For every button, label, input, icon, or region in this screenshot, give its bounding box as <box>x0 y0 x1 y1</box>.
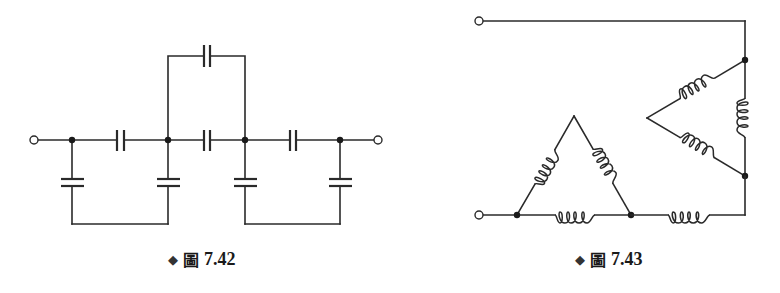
junction-node <box>165 137 171 143</box>
caption-label: 圖 <box>590 247 606 271</box>
capacitor-shunt-4 <box>329 179 352 186</box>
inductor <box>678 131 718 161</box>
inductor <box>555 212 595 223</box>
capacitor-bridge <box>204 45 210 67</box>
capacitor-shunt-3 <box>234 179 257 186</box>
diamond-bullet-icon: ◆ <box>168 252 178 267</box>
figure-7-43-circuit <box>475 17 748 223</box>
figure-caption-7-43: ◆ 圖 7.43 <box>575 247 643 271</box>
caption-number: 7.42 <box>204 249 236 270</box>
inductor <box>590 145 620 185</box>
inductor-series <box>668 212 710 223</box>
junction-node <box>242 137 248 143</box>
junction-node <box>69 137 75 143</box>
delta-network-right <box>647 57 748 179</box>
terminal-top <box>475 17 483 25</box>
circuit-diagrams <box>0 0 780 293</box>
terminal-right <box>374 136 382 144</box>
inductor <box>676 71 716 101</box>
junction-node <box>742 57 748 63</box>
delta-network-left <box>514 116 634 223</box>
diamond-bullet-icon: ◆ <box>575 252 585 267</box>
capacitor-shunt-2 <box>157 179 180 186</box>
terminal-left <box>30 136 38 144</box>
caption-label: 圖 <box>183 247 199 271</box>
capacitor-series-3 <box>290 130 296 151</box>
junction-node <box>514 212 520 218</box>
figure-caption-7-42: ◆ 圖 7.42 <box>168 247 236 271</box>
capacitor-shunt-1 <box>61 179 84 186</box>
inductor <box>737 98 748 138</box>
capacitor-series-1 <box>117 130 124 151</box>
junction-node <box>337 137 343 143</box>
terminal-bottom <box>475 211 483 219</box>
capacitor-series-2 <box>204 130 210 151</box>
caption-number: 7.43 <box>611 249 643 270</box>
inductor <box>532 148 562 188</box>
figure-7-42-circuit <box>30 45 382 224</box>
